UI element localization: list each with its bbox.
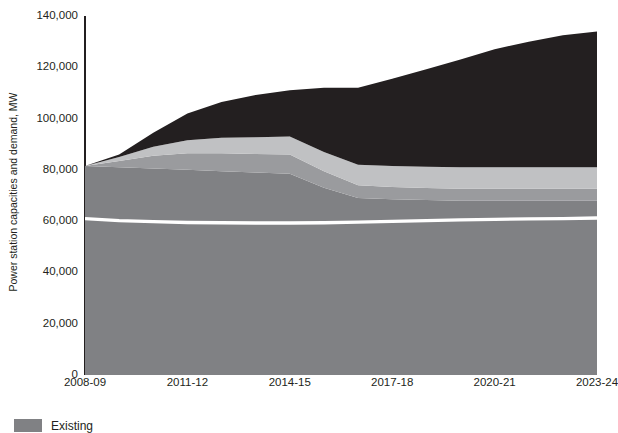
x-tick-label: 2020-21 [473, 376, 515, 388]
x-tick-label: 2011-12 [167, 376, 208, 388]
chart-legend: Existing [14, 419, 93, 432]
y-tick-label: 80,000 [8, 164, 78, 176]
y-tick-label: 40,000 [8, 266, 78, 278]
stacked-area-svg [85, 16, 597, 375]
x-tick-label: 2008-09 [64, 376, 106, 388]
x-axis-tick-labels: 2008-092011-122014-152017-182020-212023-… [0, 376, 605, 396]
y-tick-label: 60,000 [8, 215, 78, 227]
y-tick-label: 20,000 [8, 318, 78, 330]
y-axis-tick-labels: 020,00040,00060,00080,000100,000120,0001… [6, 0, 78, 431]
x-tick-label: 2017-18 [371, 376, 413, 388]
x-tick-label: 2014-15 [269, 376, 311, 388]
plot-area [85, 16, 597, 375]
legend-swatch [14, 419, 42, 432]
y-tick-label: 120,000 [8, 61, 78, 73]
y-tick-label: 140,000 [8, 10, 78, 22]
y-tick-label: 100,000 [8, 113, 78, 125]
x-tick-label: 2023-24 [576, 376, 618, 388]
legend-label: Existing [51, 420, 93, 432]
